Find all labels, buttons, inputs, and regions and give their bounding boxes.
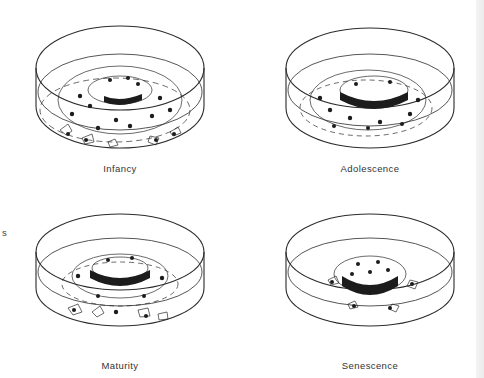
panel-maturity: Maturity <box>20 200 220 372</box>
panel-adolescence: Adolescence <box>270 10 470 182</box>
petri-dish-adolescence-illustration <box>270 10 470 182</box>
petri-dish-senescence-illustration <box>270 200 470 372</box>
caption-adolescence: Adolescence <box>270 163 470 174</box>
petri-dish-maturity-illustration <box>20 200 220 372</box>
caption-senescence: Senescence <box>270 360 470 371</box>
caption-infancy: Infancy <box>20 163 220 174</box>
page-edge-shadow <box>476 0 484 378</box>
caption-maturity: Maturity <box>20 360 220 371</box>
cutoff-margin-text: s <box>2 227 7 238</box>
petri-dish-infancy-illustration <box>20 10 220 182</box>
panel-senescence: Senescence <box>270 200 470 372</box>
panel-infancy: Infancy <box>20 10 220 182</box>
cell-sheet <box>40 66 190 147</box>
